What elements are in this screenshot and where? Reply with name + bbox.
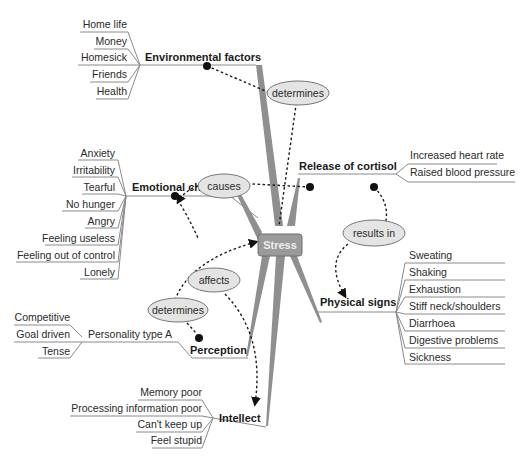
emo-item: Irritability	[73, 164, 116, 176]
relation-line-determines-bottom	[187, 323, 197, 334]
relation-label-determines-bottom: determines	[152, 304, 204, 316]
intellect-item: Processing information poor	[71, 402, 202, 414]
personality-label: Personality type A	[88, 328, 172, 340]
env-item: Friends	[92, 68, 127, 80]
emo-item: No hunger	[66, 198, 116, 210]
spoke-physical	[290, 256, 322, 323]
spoke-perception	[246, 256, 270, 357]
personality-item: Competitive	[15, 311, 71, 323]
emo-item: Lonely	[84, 266, 116, 278]
branch-emotional: Anxiety Irritability Tearful No hunger A…	[16, 147, 258, 279]
spoke-intellect	[266, 256, 285, 426]
cortisol-item: Raised blood pressure	[410, 166, 515, 178]
emo-item: Anxiety	[81, 147, 116, 159]
emo-item: Feeling useless	[42, 232, 115, 244]
env-item: Homesick	[81, 51, 128, 63]
personality-item: Goal driven	[16, 328, 70, 340]
branch-environmental: Home life Money Homesick Friends Health …	[78, 18, 261, 99]
intellect-item: Can't keep up	[138, 418, 203, 430]
env-item: Money	[95, 35, 127, 47]
phys-item: Stiff neck/shoulders	[409, 300, 500, 312]
connector-dot	[195, 334, 203, 342]
center-node-stress: Stress	[258, 234, 302, 256]
branch-cortisol: Increased heart rate Raised blood pressu…	[298, 149, 515, 191]
phys-item: Sweating	[409, 249, 452, 261]
relation-label-affects: affects	[199, 274, 230, 286]
cortisol-item: Increased heart rate	[410, 149, 504, 161]
phys-item: Diarrhoea	[409, 317, 455, 329]
phys-item: Sickness	[409, 351, 451, 363]
relation-line-results-in-bottom	[336, 244, 348, 296]
phys-item: Digestive problems	[409, 334, 498, 346]
relation-label-causes: causes	[207, 180, 240, 192]
stress-mind-map: Home life Money Homesick Friends Health …	[0, 0, 531, 467]
branch-label-intellect: Intellect	[219, 412, 261, 424]
center-node-label: Stress	[263, 239, 297, 251]
intellect-item: Memory poor	[140, 386, 202, 398]
branch-label-cortisol: Release of cortisol	[299, 160, 397, 172]
phys-item: Exhaustion	[409, 283, 461, 295]
branch-intellect: Memory poor Processing information poor …	[70, 386, 266, 448]
relation-line-emotional-affects	[175, 196, 198, 238]
emo-item: Feeling out of control	[17, 249, 115, 261]
env-item: Home life	[83, 18, 128, 30]
branch-label-physical: Physical signs	[320, 296, 396, 308]
intellect-item: Feel stupid	[151, 434, 203, 446]
relation-label-results-in: results in	[353, 227, 395, 239]
branch-perception: Competitive Goal driven Tense Personalit…	[14, 311, 248, 358]
branch-physical: Sweating Shaking Exhaustion Stiff neck/s…	[316, 249, 505, 364]
branch-label-perception: Perception	[190, 344, 247, 356]
branch-label-environmental: Environmental factors	[145, 51, 261, 63]
personality-item: Tense	[42, 345, 70, 357]
env-item: Health	[97, 85, 128, 97]
relation-label-determines-top: determines	[272, 87, 324, 99]
emo-item: Angry	[88, 215, 116, 227]
spoke-cortisol	[287, 178, 300, 226]
emo-item: Tearful	[83, 181, 115, 193]
relation-line-causes	[252, 184, 310, 187]
phys-item: Shaking	[409, 266, 447, 278]
